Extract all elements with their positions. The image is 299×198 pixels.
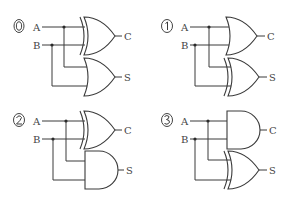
option-number-circle bbox=[162, 114, 173, 127]
input-b-label: B bbox=[181, 134, 188, 145]
or-gate-bottom bbox=[84, 58, 115, 96]
xor-gate-top bbox=[80, 17, 115, 55]
output-s-label: S bbox=[126, 165, 133, 176]
junction-b bbox=[50, 43, 53, 46]
xor-gate-bottom bbox=[224, 151, 259, 189]
panel-option-3: A B C S bbox=[162, 111, 278, 189]
input-b-label: B bbox=[33, 40, 40, 51]
input-a-label: A bbox=[180, 22, 189, 33]
or-gate-top bbox=[226, 17, 257, 55]
output-s-label: S bbox=[269, 72, 276, 83]
panel-option-0: A B C S bbox=[14, 17, 132, 96]
circuit-diagram: A B C S A B bbox=[0, 0, 299, 198]
input-b-label: B bbox=[181, 40, 188, 51]
panel-option-1: A B C S bbox=[162, 17, 277, 96]
input-b-label: B bbox=[33, 134, 40, 145]
and-gate-top bbox=[227, 111, 260, 149]
and-gate-bottom bbox=[85, 151, 118, 189]
input-a-label: A bbox=[32, 22, 41, 33]
panel-option-2: A B C S bbox=[14, 111, 134, 189]
option-number-circle bbox=[14, 114, 25, 127]
junction-a bbox=[62, 25, 65, 28]
output-c-label: C bbox=[124, 31, 132, 42]
xor-gate-bottom bbox=[224, 58, 259, 96]
input-a-label: A bbox=[32, 116, 41, 127]
wire-b-branch bbox=[52, 45, 88, 86]
option-number-circle bbox=[14, 20, 24, 33]
output-c-label: C bbox=[267, 31, 275, 42]
option-number-circle bbox=[162, 20, 173, 33]
output-c-label: C bbox=[269, 125, 277, 136]
output-s-label: S bbox=[269, 165, 276, 176]
input-a-label: A bbox=[180, 116, 189, 127]
output-c-label: C bbox=[124, 125, 132, 136]
xor-gate-top bbox=[80, 111, 115, 149]
output-s-label: S bbox=[124, 72, 131, 83]
